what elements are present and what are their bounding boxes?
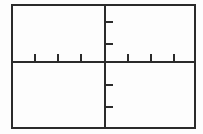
figure-background xyxy=(0,0,203,134)
figure-canvas xyxy=(0,0,203,134)
coordinate-axes-svg xyxy=(0,0,203,134)
